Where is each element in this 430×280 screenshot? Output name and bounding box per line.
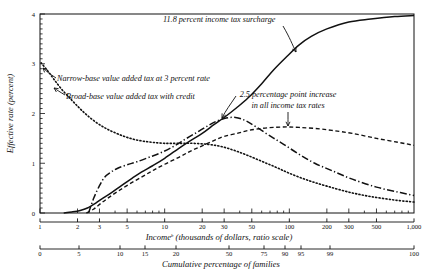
x2-tick-label: 5 bbox=[77, 250, 81, 257]
y-tick-label: 0 bbox=[32, 210, 36, 217]
annotation-leader bbox=[43, 68, 56, 78]
y-tick-label: 1 bbox=[32, 160, 35, 167]
x2-axis-title: Cumulative percentage of families bbox=[162, 259, 280, 269]
x2-tick-label: 15 bbox=[142, 250, 149, 257]
x-axis-title: Incomeb (thousands of dollars, ratio sca… bbox=[145, 232, 293, 242]
x-tick-label: 3 bbox=[98, 223, 102, 230]
x-tick-label: 1 bbox=[38, 223, 41, 230]
x-tick-label: 2 bbox=[76, 223, 79, 230]
x2-tick-label: 0 bbox=[38, 250, 42, 257]
y-tick-label: 4 bbox=[32, 11, 36, 18]
y-axis: 01234 bbox=[32, 11, 45, 217]
x-tick-label: 300 bbox=[344, 223, 355, 230]
broad-base-annotation: Broad-base value added tax with credit bbox=[66, 92, 195, 101]
plot-frame bbox=[40, 14, 414, 213]
y-axis-title: Effective rate (percent) bbox=[5, 74, 15, 155]
effective-tax-rate-chart: 01234Effective rate (percent)12351020305… bbox=[0, 0, 430, 280]
x-tick-label: 20 bbox=[199, 223, 206, 230]
income-tax-increase-annotation-line1: 2.5 percentage point increase bbox=[240, 90, 337, 99]
series-group bbox=[41, 15, 414, 213]
x-tick-label: 1,000 bbox=[407, 223, 423, 230]
x-tick-label: 10 bbox=[161, 223, 168, 230]
y-tick-label: 3 bbox=[32, 60, 36, 67]
surcharge-annotation: 11.8 percent income tax surcharge bbox=[163, 15, 276, 24]
series-line-dashdot bbox=[89, 117, 414, 213]
x2-tick-label: 95 bbox=[298, 250, 305, 257]
x-tick-label: 200 bbox=[322, 223, 333, 230]
series-line-solid bbox=[64, 15, 414, 213]
series-line-dashed bbox=[86, 127, 414, 213]
x2-tick-label: 90 bbox=[282, 250, 289, 257]
x2-tick-label: 75 bbox=[261, 250, 268, 257]
annotation-leader bbox=[283, 26, 296, 52]
x-axis-income: 1235102030501002003005001,000 bbox=[38, 209, 422, 231]
x2-tick-label: 10 bbox=[117, 250, 124, 257]
x-tick-label: 30 bbox=[221, 223, 228, 230]
chart-figure: 01234Effective rate (percent)12351020305… bbox=[0, 0, 430, 280]
income-tax-increase-annotation-line2: in all income tax rates bbox=[251, 101, 324, 110]
x-axis-cumulative: 051015205075909599100 bbox=[38, 245, 419, 257]
x-tick-label: 100 bbox=[284, 223, 295, 230]
x-tick-label: 500 bbox=[372, 223, 383, 230]
x-tick-label: 5 bbox=[125, 223, 129, 230]
x2-tick-label: 100 bbox=[409, 250, 420, 257]
y-tick-label: 2 bbox=[32, 110, 35, 117]
x2-tick-label: 99 bbox=[327, 250, 334, 257]
x-tick-label: 50 bbox=[249, 223, 256, 230]
x2-tick-label: 20 bbox=[173, 250, 180, 257]
annotations: 11.8 percent income tax surchargeNarrow-… bbox=[43, 15, 337, 126]
series-line-dotted bbox=[41, 63, 414, 202]
narrow-base-annotation: Narrow-base value added tax at 3 percent… bbox=[56, 74, 210, 83]
x2-tick-label: 50 bbox=[226, 250, 233, 257]
